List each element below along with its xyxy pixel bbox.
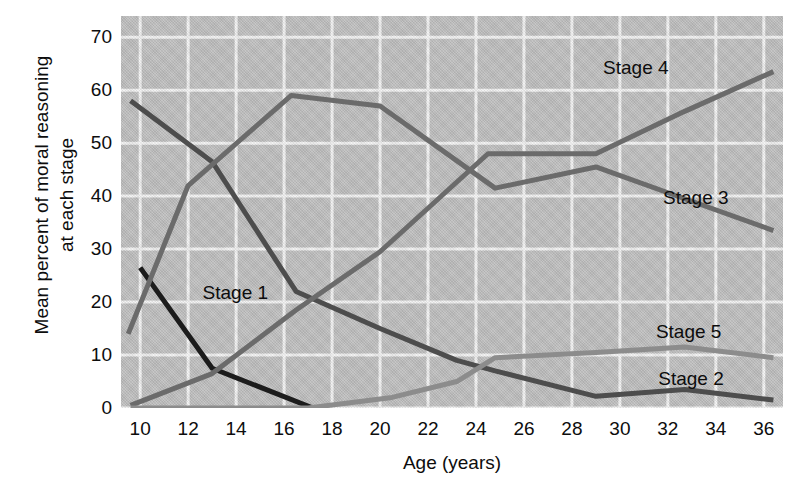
x-tick-label: 22 [408, 418, 448, 440]
plot-area: Stage 1Stage 2Stage 3Stage 4Stage 5 [121, 16, 783, 408]
x-tick-label: 28 [552, 418, 592, 440]
x-tick-label: 20 [360, 418, 400, 440]
series-label: Stage 5 [656, 321, 722, 343]
x-tick-label: 26 [504, 418, 544, 440]
series-line [131, 101, 774, 400]
series-label: Stage 2 [658, 368, 724, 390]
x-tick-label: 12 [168, 418, 208, 440]
series-label: Stage 4 [603, 57, 669, 79]
x-tick-label: 18 [312, 418, 352, 440]
x-tick-label: 16 [264, 418, 304, 440]
x-tick-label: 10 [120, 418, 160, 440]
series-label: Stage 1 [203, 282, 269, 304]
chart-figure: Mean percent of moral reasoning at each … [0, 0, 793, 488]
x-tick-label: 34 [696, 418, 736, 440]
x-tick-label: 30 [600, 418, 640, 440]
x-tick-label: 32 [648, 418, 688, 440]
series-label: Stage 3 [663, 187, 729, 209]
x-tick-label: 36 [744, 418, 784, 440]
x-tick-label: 14 [216, 418, 256, 440]
x-tick-label: 24 [456, 418, 496, 440]
x-axis-label: Age (years) [121, 452, 783, 474]
series-line [131, 72, 774, 406]
series-lines [121, 16, 783, 408]
